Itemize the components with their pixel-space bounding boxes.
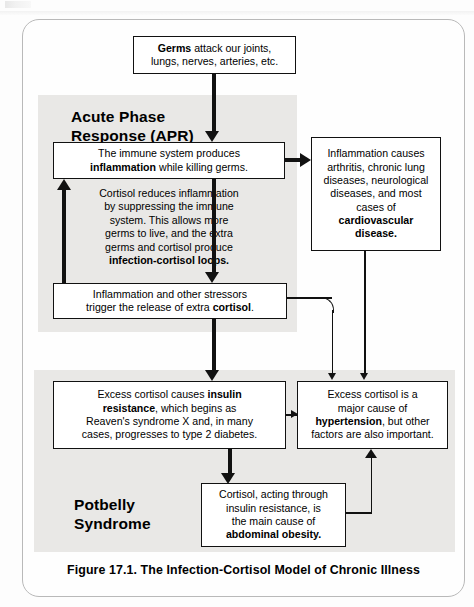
panel-title-apr: Acute Phase Response (APR) <box>71 107 194 145</box>
node-immune-system: The immune system producesinflammation w… <box>53 142 285 179</box>
arrow-obesity-to-hypertension-vertical <box>371 458 373 513</box>
page-number-smudge <box>5 1 31 8</box>
arrow-insulin-to-obesity-head <box>221 473 235 484</box>
arrow-trigger-to-hypertension-vertical <box>332 310 334 374</box>
arrow-insulin-to-hypertension-head <box>291 410 298 418</box>
node-insulin-resistance: Excess cortisol causes insulinresistance… <box>53 381 286 449</box>
page-top-rule <box>0 11 474 15</box>
node-abdominal-obesity: Cortisol, acting throughinsulin resistan… <box>201 483 346 547</box>
arrow-insulin-to-obesity-line <box>228 449 232 474</box>
arrow-diseases-to-hypertension-line <box>364 251 366 374</box>
panel-title-potbelly: Potbelly Syndrome <box>74 495 151 533</box>
arrow-obesity-to-hypertension-head <box>365 449 377 458</box>
arrow-trigger-to-insulin-line <box>212 319 216 371</box>
node-hypertension: Excess cortisol is amajor cause ofhypert… <box>297 381 448 449</box>
node-germs: Germs attack our joints,lungs, nerves, a… <box>133 36 296 74</box>
arrow-trigger-to-immune-head <box>57 179 71 190</box>
figure-caption: Figure 17.1. The Infection-Cortisol Mode… <box>22 563 465 577</box>
arrow-immune-to-trigger-line <box>212 179 216 273</box>
node-inflammation-diseases: Inflammation causesarthritis, chronic lu… <box>311 137 441 251</box>
arrow-immune-to-trigger-head <box>205 272 219 283</box>
figure-page: Acute Phase Response (APR) Potbelly Synd… <box>0 0 474 607</box>
arrow-obesity-to-hypertension-horizontal <box>346 512 372 514</box>
arrow-germs-to-immune-line <box>212 74 216 132</box>
arrow-diseases-to-hypertension-head <box>360 373 368 380</box>
arrow-germs-to-immune-head <box>205 131 219 142</box>
arrow-trigger-to-insulin-head <box>205 370 219 381</box>
arrow-trigger-to-hypertension-head <box>328 373 336 380</box>
node-trigger-extra-cortisol: Inflammation and other stressorstrigger … <box>53 283 287 319</box>
text-cortisol-reduces-inflammation: Cortisol reduces inflammationby suppress… <box>57 187 281 267</box>
arrow-immune-to-diseases-head <box>300 153 311 167</box>
arrow-trigger-to-immune-line <box>62 188 66 283</box>
